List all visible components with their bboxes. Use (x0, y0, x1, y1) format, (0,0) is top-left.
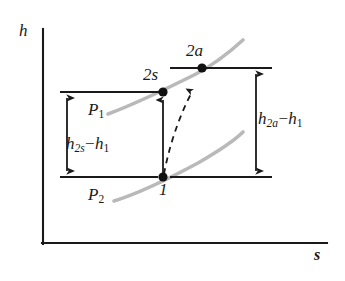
state-label-1: 1 (159, 181, 168, 198)
isobar-label-P2: P2 (88, 186, 104, 206)
isobar-label-P1-base: P (88, 100, 98, 119)
isobar-curve-P1 (108, 40, 243, 114)
hs-diagram-figure: h s 2a 2s 1 P1 P2 h2s−h1 h2a−h1 (0, 0, 345, 281)
process-paths (163, 92, 192, 175)
dim-h2s-term2-subscript: 1 (104, 142, 110, 155)
dim-h2a-term2-subscript: 1 (297, 117, 303, 130)
dim-h2s-operator: − (85, 134, 95, 153)
isobar-label-P1-subscript: 1 (98, 108, 104, 121)
state-label-2s: 2s (143, 66, 158, 83)
process-arrow-actual (164, 92, 192, 174)
y-axis-label: h (19, 22, 28, 39)
dim-h2a-subscript: 2a (267, 117, 279, 130)
isobar-label-P1: P1 (88, 101, 104, 121)
state-point-2s (158, 87, 167, 96)
x-axis-label: s (314, 247, 320, 263)
dim-h2s-term2: h (95, 134, 104, 153)
diagram-canvas (0, 0, 345, 281)
dimension-label-h2a-h1: h2a−h1 (258, 110, 303, 130)
state-label-2a: 2a (186, 42, 203, 59)
dim-h2a-operator: − (278, 109, 288, 128)
isobar-label-P2-base: P (88, 185, 98, 204)
isobar-curve-P2 (114, 132, 243, 201)
isobar-label-P2-subscript: 2 (98, 193, 104, 206)
dimension-label-h2s-h1: h2s−h1 (66, 135, 109, 155)
dim-h2s-subscript: 2s (75, 142, 85, 155)
dim-h2s-base: h (66, 134, 75, 153)
dim-h2a-base: h (258, 109, 267, 128)
state-point-2a (197, 63, 206, 72)
dim-h2a-term2: h (288, 109, 297, 128)
